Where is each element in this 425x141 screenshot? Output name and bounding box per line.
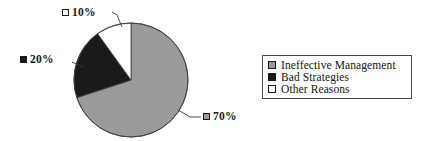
data-label-swatch-black-icon xyxy=(20,56,27,63)
data-label-text-bad-strategies: 20% xyxy=(30,54,54,66)
leader-line-ineffective-management xyxy=(178,110,201,117)
legend-swatch-black-icon xyxy=(268,73,276,81)
chart-legend: Ineffective Management Bad Strategies Ot… xyxy=(262,55,412,99)
legend-swatch-gray-icon xyxy=(268,61,276,69)
data-label-other-reasons: 10% xyxy=(62,7,96,19)
legend-item-bad-strategies: Bad Strategies xyxy=(268,71,406,83)
legend-label-other-reasons: Other Reasons xyxy=(281,83,350,95)
legend-item-ineffective-management: Ineffective Management xyxy=(268,59,406,71)
legend-swatch-white-icon xyxy=(268,85,276,93)
data-label-text-other-reasons: 10% xyxy=(72,7,96,19)
legend-item-other-reasons: Other Reasons xyxy=(268,83,406,95)
data-label-swatch-white-icon xyxy=(62,9,69,16)
legend-label-ineffective-management: Ineffective Management xyxy=(281,59,396,71)
data-label-ineffective-management: 70% xyxy=(203,111,237,123)
legend-label-bad-strategies: Bad Strategies xyxy=(281,71,349,83)
data-label-swatch-gray-icon xyxy=(203,113,210,120)
data-label-text-ineffective-management: 70% xyxy=(213,111,237,123)
pie-chart-figure: 10% 20% 70% Ineffective Management Bad S… xyxy=(0,0,425,141)
data-label-bad-strategies: 20% xyxy=(20,54,54,66)
